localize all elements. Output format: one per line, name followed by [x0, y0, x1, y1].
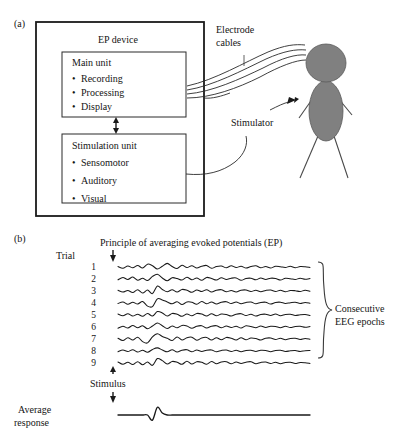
average-response-trace [118, 407, 310, 420]
eeg-trace-group [118, 263, 310, 420]
subject-left-leg [300, 136, 318, 178]
subject-head [306, 44, 346, 82]
eeg-trace-1 [118, 263, 310, 269]
eeg-trace-2 [118, 274, 310, 281]
stimulus-arrow-bottom [110, 366, 116, 374]
ep-averaging-figure: (a) EP device Main unit •Recording •Proc… [0, 0, 404, 436]
eeg-epochs-brace [318, 262, 332, 358]
stimulation-unit-box [62, 134, 186, 203]
human-subject-figure [299, 44, 352, 178]
eeg-trace-3 [118, 286, 310, 294]
eeg-trace-6 [118, 323, 310, 329]
main-unit-box [62, 52, 186, 117]
units-link-double-arrow [113, 117, 119, 134]
subject-torso [309, 81, 343, 141]
stimulator-cable [186, 97, 299, 175]
eeg-trace-4 [118, 298, 310, 307]
figure-vector-layer [0, 0, 404, 436]
eeg-trace-5 [118, 311, 310, 316]
stimulus-arrow-average [110, 392, 116, 403]
subject-right-leg [334, 136, 348, 178]
eeg-trace-8 [118, 348, 310, 352]
eeg-trace-9 [118, 358, 310, 365]
ep-device-box [36, 22, 204, 216]
eeg-trace-7 [118, 334, 310, 343]
stimulus-arrow-top [110, 250, 116, 262]
